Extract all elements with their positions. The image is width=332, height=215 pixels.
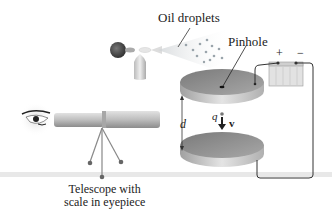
telescope: [54, 111, 160, 179]
pinhole: [220, 86, 225, 89]
label-distance: d: [180, 117, 186, 132]
diagram-canvas: [0, 0, 332, 215]
label-positive: +: [276, 46, 283, 61]
label-negative: −: [297, 46, 304, 61]
label-telescope: Telescope with scale in eyepiece: [64, 183, 145, 209]
battery: [269, 61, 303, 86]
eye: [19, 102, 53, 136]
lower-plate: [180, 132, 264, 167]
atomizer-bottle: [134, 54, 146, 80]
charged-droplet: [218, 112, 226, 130]
label-telescope-line2: scale in eyepiece: [64, 196, 145, 209]
spray-cloud: [158, 30, 232, 68]
label-pinhole: Pinhole: [228, 34, 268, 50]
label-charge: q: [212, 110, 218, 122]
millikan-oil-drop-diagram: Oil droplets Pinhole + − d q v⃗ Telescop…: [0, 0, 332, 215]
floor-line: [0, 172, 332, 177]
label-oil-droplets: Oil droplets: [158, 10, 220, 26]
atomizer-bulb: [110, 42, 126, 58]
label-velocity: v⃗: [229, 117, 243, 129]
